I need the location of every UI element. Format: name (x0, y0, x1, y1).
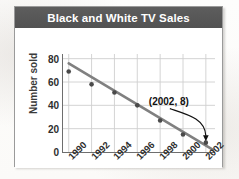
data-point-annotation: (2002, 8) (149, 96, 189, 107)
chart-svg (63, 54, 215, 152)
trend-line (69, 63, 213, 149)
chart-title: Black and White TV Sales (47, 12, 189, 24)
chart-plot-area: Number sold 020406080 199019921994199619… (15, 28, 222, 168)
y-tick-label: 40 (48, 100, 59, 111)
y-tick-label: 0 (53, 147, 59, 158)
y-tick-label: 20 (48, 123, 59, 134)
y-tick-label: 80 (48, 53, 59, 64)
chart-card: Black and White TV Sales Number sold 020… (14, 6, 223, 167)
y-axis-ticks: 020406080 (37, 54, 59, 152)
x-axis-ticks: 1990199219941996199820002002 (62, 154, 214, 179)
y-tick-label: 60 (48, 77, 59, 88)
plot-canvas (62, 54, 215, 153)
chart-title-bar: Black and White TV Sales (15, 7, 222, 28)
